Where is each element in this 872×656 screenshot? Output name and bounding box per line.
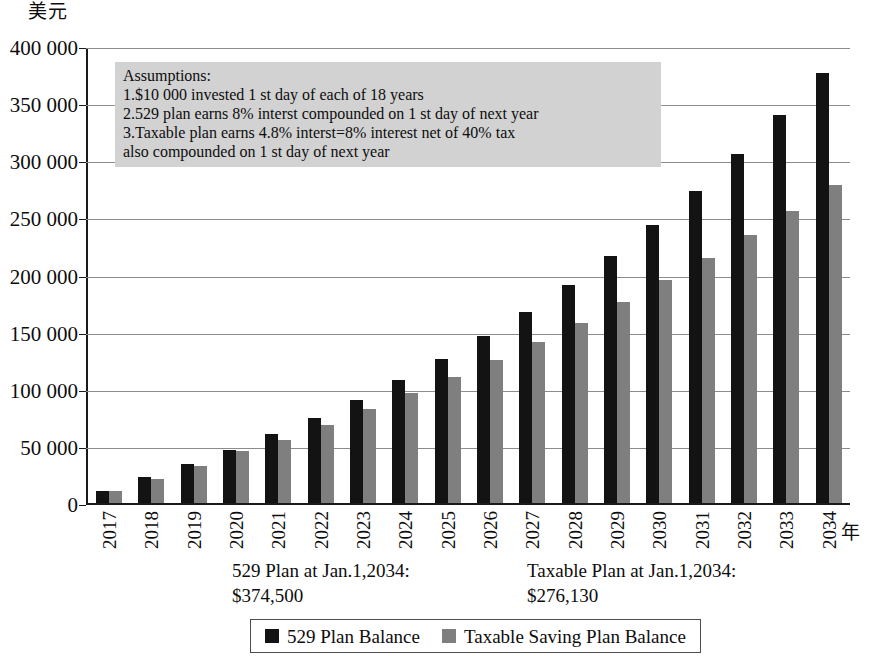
bar-plan529-2028 bbox=[562, 285, 575, 503]
bar-taxable-2025 bbox=[448, 377, 461, 503]
bar-taxable-2032 bbox=[744, 235, 757, 503]
assumption-line: also compounded on 1 st day of next year bbox=[123, 142, 653, 161]
bar-taxable-2022 bbox=[321, 425, 334, 503]
bar-plan529-2026 bbox=[477, 336, 490, 503]
bar-plan529-2023 bbox=[350, 400, 363, 503]
x-tick-cell: 2033 bbox=[765, 507, 807, 581]
assumption-line: 3.Taxable plan earns 4.8% interst=8% int… bbox=[123, 123, 653, 142]
x-tick-cell: 2026 bbox=[469, 507, 511, 581]
y-tick-label: 250 000 bbox=[2, 209, 86, 230]
y-tick-label: 400 000 bbox=[2, 38, 86, 59]
x-tick-label: 2027 bbox=[523, 511, 542, 549]
y-tick-mark bbox=[79, 334, 86, 335]
y-tick-mark bbox=[79, 162, 86, 163]
x-tick-label: 2017 bbox=[100, 511, 119, 549]
bar-taxable-2020 bbox=[236, 451, 249, 503]
legend-entry: 529 Plan Balance bbox=[265, 627, 420, 646]
summary-taxable-plan-value: $276,130 bbox=[527, 583, 736, 608]
bar-group bbox=[681, 48, 723, 503]
summary-taxable-plan: Taxable Plan at Jan.1,2034: $276,130 bbox=[527, 558, 736, 608]
y-axis-tick-labels: 400 000350 000300 000250 000200 000150 0… bbox=[0, 48, 86, 505]
bar-plan529-2027 bbox=[519, 312, 532, 503]
x-axis-unit-label: 年 bbox=[841, 523, 860, 542]
bar-taxable-2019 bbox=[194, 466, 207, 503]
bar-taxable-2018 bbox=[151, 479, 164, 503]
x-tick-cell: 2018 bbox=[130, 507, 172, 581]
x-tick-cell: 2025 bbox=[427, 507, 469, 581]
legend-label: 529 Plan Balance bbox=[287, 627, 420, 646]
x-axis-line bbox=[86, 503, 850, 505]
bar-plan529-2033 bbox=[773, 115, 786, 503]
assumption-line: Assumptions: bbox=[123, 66, 653, 85]
x-tick-label: 2034 bbox=[819, 511, 838, 549]
x-tick-label: 2031 bbox=[692, 511, 711, 549]
x-tick-label: 2032 bbox=[735, 511, 754, 549]
legend-label: Taxable Saving Plan Balance bbox=[464, 627, 686, 646]
y-tick-label: 100 000 bbox=[2, 380, 86, 401]
x-tick-label: 2023 bbox=[354, 511, 373, 549]
x-tick-label: 2030 bbox=[650, 511, 669, 549]
x-tick-label: 2018 bbox=[142, 511, 161, 549]
x-tick-label: 2022 bbox=[311, 511, 330, 549]
y-tick-label: 150 000 bbox=[2, 323, 86, 344]
bar-taxable-2024 bbox=[405, 393, 418, 503]
bar-plan529-2018 bbox=[138, 477, 151, 503]
y-tick-mark bbox=[79, 391, 86, 392]
bar-plan529-2021 bbox=[265, 434, 278, 503]
y-tick-mark bbox=[79, 219, 86, 220]
legend-swatch-icon bbox=[265, 629, 279, 643]
bar-taxable-2021 bbox=[278, 440, 291, 503]
y-tick-mark bbox=[79, 48, 86, 49]
summary-529-plan-value: $374,500 bbox=[232, 583, 410, 608]
y-tick-mark bbox=[79, 505, 86, 506]
bar-taxable-2031 bbox=[702, 258, 715, 503]
y-axis-unit-label: 美元 bbox=[28, 2, 68, 21]
y-tick-label: 50 000 bbox=[2, 437, 86, 458]
y-tick-mark bbox=[79, 448, 86, 449]
bar-plan529-2030 bbox=[646, 225, 659, 503]
x-tick-label: 2033 bbox=[777, 511, 796, 549]
x-tick-label: 2021 bbox=[269, 511, 288, 549]
summary-taxable-plan-title: Taxable Plan at Jan.1,2034: bbox=[527, 558, 736, 583]
bar-taxable-2034 bbox=[829, 185, 842, 503]
bar-taxable-2030 bbox=[659, 280, 672, 503]
bar-taxable-2023 bbox=[363, 409, 376, 503]
bar-plan529-2034 bbox=[816, 73, 829, 503]
chart-legend: 529 Plan BalanceTaxable Saving Plan Bala… bbox=[250, 619, 701, 653]
bar-taxable-2027 bbox=[532, 342, 545, 503]
bar-taxable-2026 bbox=[490, 360, 503, 503]
x-tick-label: 2028 bbox=[565, 511, 584, 549]
summary-529-plan-title: 529 Plan at Jan.1,2034: bbox=[232, 558, 410, 583]
x-tick-cell: 2019 bbox=[173, 507, 215, 581]
y-tick-label: 200 000 bbox=[2, 266, 86, 287]
bar-plan529-2020 bbox=[223, 450, 236, 503]
x-tick-label: 2026 bbox=[481, 511, 500, 549]
y-tick-mark bbox=[79, 277, 86, 278]
bar-taxable-2017 bbox=[109, 491, 122, 503]
y-tick-label: 350 000 bbox=[2, 95, 86, 116]
bar-taxable-2028 bbox=[575, 323, 588, 503]
bar-plan529-2017 bbox=[96, 491, 109, 503]
legend-entry: Taxable Saving Plan Balance bbox=[442, 627, 686, 646]
legend-swatch-icon bbox=[442, 629, 456, 643]
summary-529-plan: 529 Plan at Jan.1,2034: $374,500 bbox=[232, 558, 410, 608]
x-tick-cell: 2034 bbox=[808, 507, 850, 581]
bar-taxable-2029 bbox=[617, 302, 630, 503]
bar-plan529-2025 bbox=[435, 359, 448, 503]
bar-group bbox=[765, 48, 807, 503]
x-tick-cell: 2017 bbox=[88, 507, 130, 581]
x-tick-label: 2020 bbox=[227, 511, 246, 549]
assumption-line: 1.$10 000 invested 1 st day of each of 1… bbox=[123, 85, 653, 104]
bar-plan529-2024 bbox=[392, 380, 405, 503]
assumptions-textbox: Assumptions:1.$10 000 invested 1 st day … bbox=[115, 62, 661, 167]
x-tick-label: 2029 bbox=[608, 511, 627, 549]
x-tick-label: 2025 bbox=[438, 511, 457, 549]
bar-plan529-2031 bbox=[689, 191, 702, 503]
bar-plan529-2022 bbox=[308, 418, 321, 503]
x-tick-label: 2024 bbox=[396, 511, 415, 549]
bar-taxable-2033 bbox=[786, 211, 799, 503]
y-tick-label: 0 bbox=[2, 495, 86, 516]
bar-plan529-2019 bbox=[181, 464, 194, 503]
x-tick-label: 2019 bbox=[184, 511, 203, 549]
y-tick-label: 300 000 bbox=[2, 152, 86, 173]
